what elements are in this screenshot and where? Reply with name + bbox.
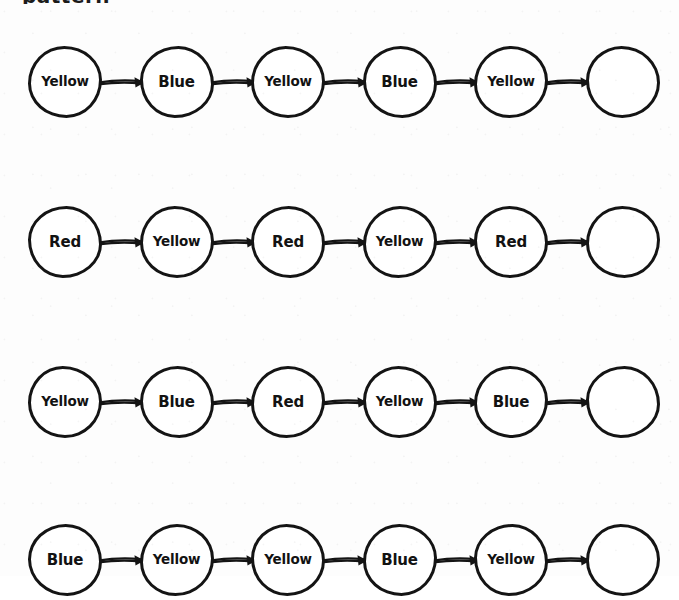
arrow-icon: [544, 395, 590, 409]
chain-row: YellowBlueYellowBlueYellow: [0, 46, 679, 142]
arrow-icon: [433, 395, 479, 409]
chain-row: YellowBlueRedYellowBlue: [0, 366, 679, 462]
pattern-node-label: Red: [495, 235, 527, 250]
pattern-node-filled: Yellow: [251, 46, 325, 118]
arrow-icon: [210, 75, 256, 89]
pattern-node-filled: Blue: [140, 366, 214, 438]
chain-row: RedYellowRedYellowRed: [0, 206, 679, 302]
pattern-node-empty[interactable]: [586, 206, 660, 278]
arrow-icon: [98, 235, 144, 249]
pattern-node-label: Blue: [493, 395, 530, 410]
pattern-node-filled: Yellow: [363, 366, 437, 438]
pattern-node-empty[interactable]: [586, 524, 660, 596]
pattern-node-label: Yellow: [264, 553, 312, 567]
pattern-node-filled: Yellow: [251, 524, 325, 596]
pattern-node-label: Blue: [158, 395, 195, 410]
pattern-node-label: Blue: [47, 553, 84, 568]
pattern-node-empty[interactable]: [586, 46, 660, 118]
arrow-icon: [321, 553, 367, 567]
pattern-node-filled: Red: [28, 206, 102, 278]
pattern-node-label: Yellow: [153, 235, 201, 249]
arrow-icon: [210, 553, 256, 567]
pattern-node-filled: Blue: [474, 366, 548, 438]
pattern-node-label: Blue: [381, 553, 418, 568]
pattern-node-filled: Yellow: [140, 524, 214, 596]
pattern-node-label: Yellow: [41, 395, 89, 409]
arrow-icon: [433, 235, 479, 249]
pattern-node-label: Yellow: [487, 553, 535, 567]
arrow-icon: [210, 235, 256, 249]
pattern-node-filled: Yellow: [28, 46, 102, 118]
pattern-node-label: Yellow: [487, 75, 535, 89]
pattern-node-filled: Yellow: [474, 524, 548, 596]
arrow-icon: [433, 75, 479, 89]
pattern-node-filled: Blue: [28, 524, 102, 596]
pattern-node-label: Yellow: [376, 395, 424, 409]
arrow-icon: [544, 235, 590, 249]
pattern-node-filled: Yellow: [474, 46, 548, 118]
pattern-node-label: Red: [49, 235, 81, 250]
pattern-node-filled: Yellow: [140, 206, 214, 278]
pattern-node-label: Yellow: [41, 75, 89, 89]
pattern-node-label: Yellow: [153, 553, 201, 567]
pattern-node-filled: Red: [251, 366, 325, 438]
arrow-icon: [98, 75, 144, 89]
arrow-icon: [544, 75, 590, 89]
pattern-node-filled: Blue: [363, 46, 437, 118]
pattern-node-filled: Blue: [140, 46, 214, 118]
pattern-node-filled: Red: [251, 206, 325, 278]
arrow-icon: [321, 75, 367, 89]
pattern-node-label: Yellow: [376, 235, 424, 249]
pattern-node-label: Yellow: [264, 75, 312, 89]
pattern-node-filled: Yellow: [28, 366, 102, 438]
pattern-node-empty[interactable]: [586, 366, 660, 438]
pattern-node-label: Red: [272, 395, 304, 410]
pattern-node-label: Red: [272, 235, 304, 250]
arrow-icon: [433, 553, 479, 567]
pattern-node-label: Blue: [158, 75, 195, 90]
pattern-node-filled: Red: [474, 206, 548, 278]
page-title: pattern: [22, 0, 110, 4]
arrow-icon: [98, 395, 144, 409]
arrow-icon: [98, 553, 144, 567]
pattern-node-filled: Yellow: [363, 206, 437, 278]
arrow-icon: [321, 235, 367, 249]
arrow-icon: [321, 395, 367, 409]
pattern-node-label: Blue: [381, 75, 418, 90]
arrow-icon: [210, 395, 256, 409]
arrow-icon: [544, 553, 590, 567]
chain-row: BlueYellowYellowBlueYellow: [0, 524, 679, 600]
pattern-node-filled: Blue: [363, 524, 437, 596]
